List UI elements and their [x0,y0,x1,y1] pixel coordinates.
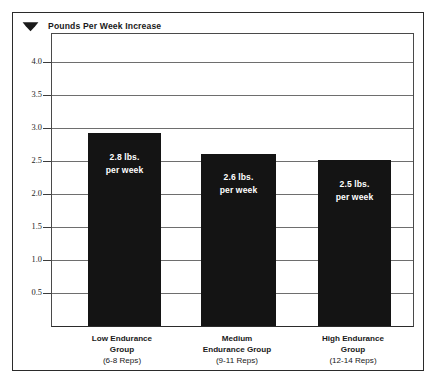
bar-value-label: 2.8 lbs. [88,151,161,164]
bar-high-endurance: 2.5 lbs. per week [318,160,391,326]
y-tick-label: 2.5 [14,157,42,165]
chart-header: Pounds Per Week Increase [22,19,161,33]
category-name-line1: Low Endurance [57,333,187,344]
page-title: Pounds Per Week Increase [48,22,161,31]
category-name-line2: Group [288,344,418,355]
gridline [52,95,413,96]
y-tick-label: 4.0 [14,58,42,66]
category-sublabel: (12-14 Reps) [288,355,418,366]
gridline [52,128,413,129]
x-category-label-low-endurance: Low Endurance Group (6-8 Reps) [57,333,187,367]
bar-unit-label: per week [88,164,161,177]
category-name-line2: Group [57,344,187,355]
bar-low-endurance: 2.8 lbs. per week [88,133,161,326]
y-tick-label: 0.5 [14,289,42,297]
x-category-label-medium-endurance: Medium Endurance Group (9-11 Reps) [172,333,302,367]
y-tick-label: 1.0 [14,256,42,264]
gridline [52,62,413,63]
bar-medium-endurance: 2.6 lbs. per week [201,154,276,326]
bar-unit-label: per week [318,191,391,204]
bar-chart-figure: Pounds Per Week Increase 4.0 3.5 3.0 2.5… [0,0,437,383]
marker-swatch-icon [22,21,39,32]
category-name-line2: Endurance Group [172,344,302,355]
category-name-line1: High Endurance [288,333,418,344]
category-sublabel: (6-8 Reps) [57,355,187,366]
bar-unit-label: per week [201,184,276,197]
x-category-label-high-endurance: High Endurance Group (12-14 Reps) [288,333,418,367]
category-name-line1: Medium [172,333,302,344]
bar-value-label: 2.6 lbs. [201,171,276,184]
y-tick-label: 3.0 [14,124,42,132]
bar-value-label: 2.5 lbs. [318,178,391,191]
y-tick-label: 2.0 [14,190,42,198]
category-sublabel: (9-11 Reps) [172,355,302,366]
y-tick-label: 3.5 [14,91,42,99]
plot-area: 2.8 lbs. per week 2.6 lbs. per week 2.5 … [51,33,414,327]
y-tick-label: 1.5 [14,223,42,231]
